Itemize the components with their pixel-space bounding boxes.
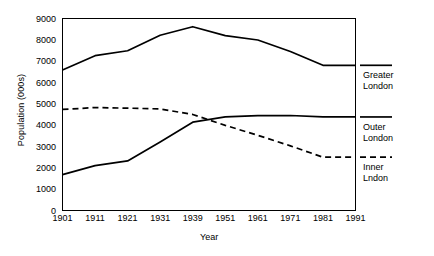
series-layer — [63, 27, 356, 175]
plot-frame — [63, 19, 356, 211]
legend-outer-london-line1: Outer — [363, 122, 386, 133]
x-axis-title: Year — [200, 232, 218, 242]
legend-inner-london-line2: Lndon — [363, 173, 388, 184]
series-line-greater-london — [63, 27, 356, 70]
legend-greater-london-line1: Greater — [363, 70, 394, 81]
legend-greater-london-line2: London — [363, 81, 393, 92]
population-line-chart: Population (000s) 0100020003000400050006… — [0, 0, 434, 256]
legend-outer-london-line2: London — [363, 133, 393, 144]
legend-inner-london-line1: Inner — [363, 162, 384, 173]
series-line-inner-london — [63, 108, 356, 158]
series-line-outer-london — [63, 116, 356, 175]
